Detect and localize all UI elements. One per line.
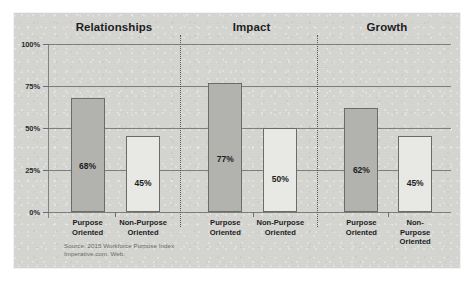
x-axis-tick-mark <box>115 212 116 217</box>
category-label: Non-Purpose Oriented <box>119 218 167 237</box>
y-axis-label-25: 25% <box>14 166 40 175</box>
bar-value-label: 45% <box>407 178 424 188</box>
y-axis-label-0: 0% <box>14 208 40 217</box>
category-label: Purpose Oriented <box>210 218 241 237</box>
category-label: Non-Purpose Oriented <box>393 218 438 247</box>
bar-value-label: 50% <box>272 174 289 184</box>
category-label: Purpose Oriented <box>72 218 103 237</box>
y-axis-label-75: 75% <box>14 82 40 91</box>
bar-growth-purpose-oriented <box>344 108 378 212</box>
chart-plot-area: 0%25%50%75%100%Relationships68%Purpose O… <box>14 13 460 268</box>
category-label: Purpose Oriented <box>346 218 377 237</box>
x-axis-tick-mark <box>253 212 254 217</box>
bar-value-label: 62% <box>353 165 370 175</box>
panel-title-growth: Growth <box>367 21 408 33</box>
y-axis-label-50: 50% <box>14 124 40 133</box>
category-label: Non-Purpose Oriented <box>256 218 304 237</box>
gridline-50 <box>48 128 451 129</box>
y-axis-label-100: 100% <box>14 40 40 49</box>
x-axis-tick-mark <box>388 212 389 217</box>
panel-title-relationships: Relationships <box>76 21 153 33</box>
screenshot-root: 0%25%50%75%100%Relationships68%Purpose O… <box>0 0 474 282</box>
bar-relationships-non-purpose-oriented <box>126 136 160 212</box>
chart-card: 0%25%50%75%100%Relationships68%Purpose O… <box>14 13 460 268</box>
bar-impact-purpose-oriented <box>208 83 242 212</box>
panel-divider-2 <box>317 35 318 227</box>
bar-impact-non-purpose-oriented <box>263 128 297 212</box>
panel-divider-1 <box>180 35 181 227</box>
y-axis-line <box>48 44 49 218</box>
gridline-75 <box>48 86 451 87</box>
bar-growth-non-purpose-oriented <box>398 136 432 212</box>
gridline-0 <box>48 212 451 213</box>
panel-title-impact: Impact <box>233 21 271 33</box>
source-note: Source: 2015 Workforce Purpose Index Imp… <box>64 242 174 258</box>
gridline-100 <box>48 44 451 45</box>
bar-value-label: 45% <box>135 178 152 188</box>
bar-value-label: 68% <box>79 161 96 171</box>
bar-relationships-purpose-oriented <box>71 98 105 212</box>
bar-value-label: 77% <box>217 154 234 164</box>
gridline-25 <box>48 170 451 171</box>
